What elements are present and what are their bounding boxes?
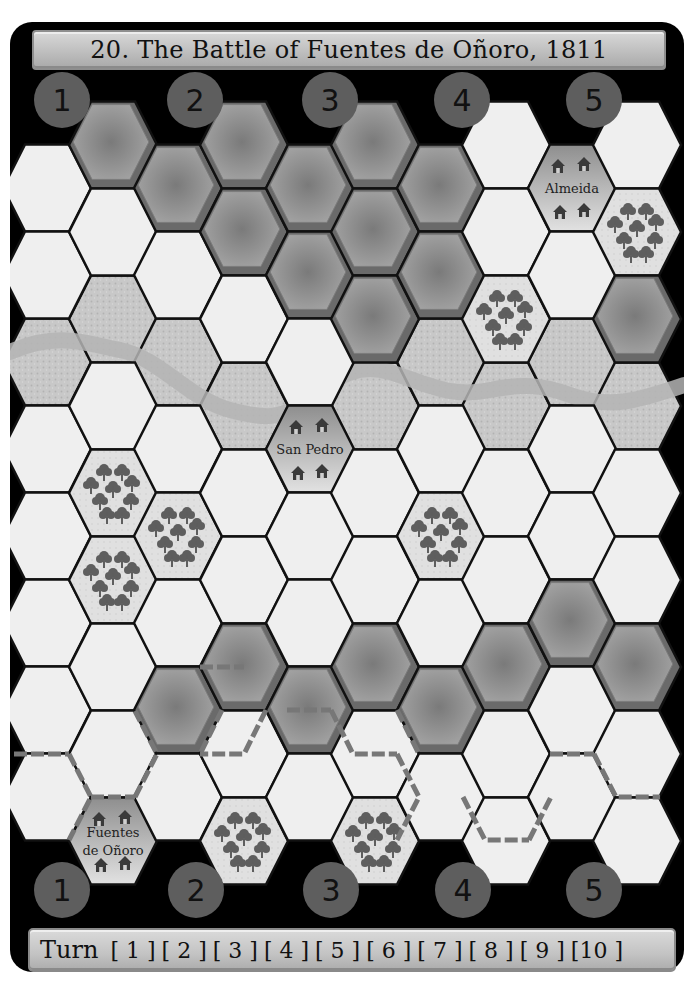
sector-marker-bottom-2: 2 (168, 862, 224, 918)
sector-marker-bottom-5: 5 (566, 862, 622, 918)
turn-label: Turn (40, 936, 98, 964)
town-name: Almeida (544, 181, 599, 196)
hex-overlay-layer: Fuentesde OñoroSan PedroAlmeida (3, 102, 681, 885)
turn-box-9[interactable]: [ 9 ] (520, 938, 565, 963)
turn-box-8[interactable]: [ 8 ] (469, 938, 514, 963)
turn-box-4[interactable]: [ 4 ] (264, 938, 309, 963)
sector-marker-bottom-4: 4 (435, 862, 491, 918)
turn-box-2[interactable]: [ 2 ] (162, 938, 207, 963)
sector-marker-top-2: 2 (167, 72, 223, 128)
sector-marker-top-4: 4 (434, 72, 490, 128)
turn-box-3[interactable]: [ 3 ] (213, 938, 258, 963)
hex-map: Fuentesde OñoroSan PedroAlmeida (0, 0, 694, 983)
sector-marker-top-5: 5 (566, 72, 622, 128)
turn-box-10[interactable]: [10 ] (571, 938, 623, 963)
town-name: San Pedro (276, 442, 344, 457)
sector-marker-top-1: 1 (34, 72, 90, 128)
turn-box-7[interactable]: [ 7 ] (417, 938, 462, 963)
turn-box-1[interactable]: [ 1 ] (110, 938, 155, 963)
turn-box-5[interactable]: [ 5 ] (315, 938, 360, 963)
town-name: de Oñoro (82, 843, 143, 858)
scenario-title-banner: 20. The Battle of Fuentes de Oñoro, 1811 (32, 30, 666, 70)
sector-marker-bottom-1: 1 (34, 862, 90, 918)
scenario-title: 20. The Battle of Fuentes de Oñoro, 1811 (90, 36, 607, 64)
turn-box-6[interactable]: [ 6 ] (366, 938, 411, 963)
sector-marker-top-3: 3 (302, 72, 358, 128)
turn-track: Turn [ 1 ] [ 2 ] [ 3 ] [ 4 ] [ 5 ] [ 6 ]… (28, 928, 676, 972)
town-name: Fuentes (86, 825, 139, 840)
sector-marker-bottom-3: 3 (303, 862, 359, 918)
